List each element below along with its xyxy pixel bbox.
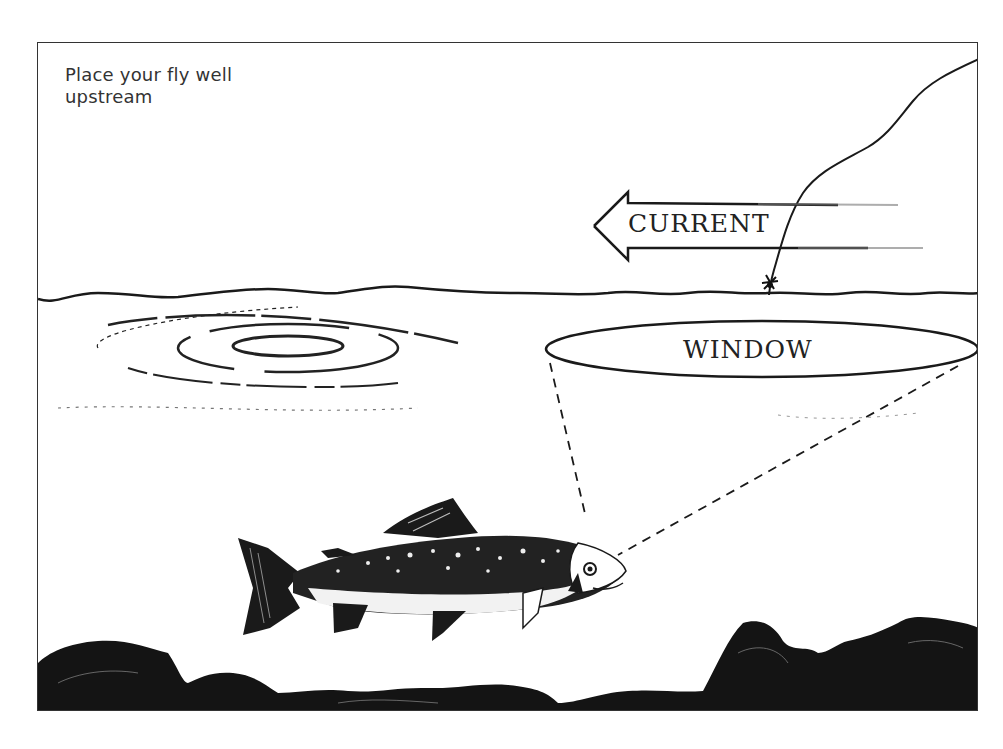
- caption-line-1: Place your fly well: [65, 64, 232, 85]
- riverbed-rocks: [38, 617, 978, 711]
- caption-text: Place your fly well upstream: [65, 64, 232, 108]
- current-label: CURRENT: [628, 209, 770, 238]
- fishing-line: [770, 59, 978, 287]
- trout-illustration: [238, 498, 626, 641]
- water-surface: [38, 286, 978, 300]
- illustration-art: [38, 43, 978, 711]
- sight-lines: [550, 363, 958, 555]
- caption-line-2: upstream: [65, 86, 153, 107]
- illustration-frame: Place your fly well upstream CURRENT WIN…: [37, 42, 978, 711]
- window-label: WINDOW: [683, 335, 813, 364]
